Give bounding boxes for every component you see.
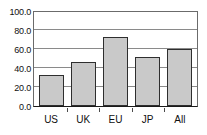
x-axis-tick-label: EU: [99, 114, 132, 125]
x-axis-tick-mark: [67, 108, 68, 112]
x-axis-tick-label: US: [35, 114, 68, 125]
bar[interactable]: [135, 57, 160, 106]
bar[interactable]: [103, 37, 128, 106]
y-axis-tick-label: 20.0: [1, 84, 31, 93]
bar[interactable]: [39, 75, 64, 106]
bar-slot: [100, 12, 132, 106]
plot-area: [33, 11, 198, 107]
bar-slot: [131, 12, 163, 106]
x-axis-tick-label: UK: [67, 114, 100, 125]
y-axis-tick-label: 80.0: [1, 27, 31, 36]
x-axis-tick-mark: [164, 108, 165, 112]
x-axis: USUKEUJPAll: [33, 107, 198, 135]
y-axis: 100.0 80.0 60.0 40.0 20.0 0.0: [0, 0, 31, 135]
y-axis-tick-label: 60.0: [1, 46, 31, 55]
bar-slot: [163, 12, 195, 106]
x-axis-tick-mark: [132, 108, 133, 112]
x-axis-tick-label: All: [163, 114, 196, 125]
bar[interactable]: [71, 62, 96, 106]
y-axis-tick-label: 100.0: [1, 8, 31, 17]
y-axis-tick-label: 0.0: [1, 103, 31, 112]
y-axis-tick-label: 40.0: [1, 65, 31, 74]
bar-slot: [68, 12, 100, 106]
x-axis-tick-mark: [99, 108, 100, 112]
bars-layer: [34, 12, 197, 106]
bar[interactable]: [167, 49, 192, 106]
bar-slot: [36, 12, 68, 106]
x-axis-tick-label: JP: [131, 114, 164, 125]
bar-chart: 100.0 80.0 60.0 40.0 20.0 0.0 USUKEUJPAl…: [0, 0, 207, 135]
